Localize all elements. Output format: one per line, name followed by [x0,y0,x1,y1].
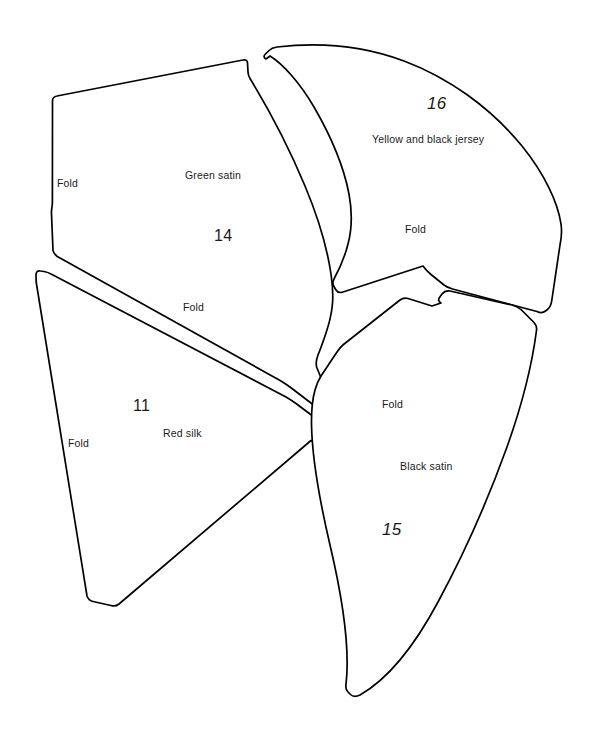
piece-number-11: 11 [133,398,150,414]
fabric-label-black-satin: Black satin [400,461,452,472]
fold-label-15: Fold [382,399,403,410]
pattern-drawing [0,0,590,740]
fabric-label-red-silk: Red silk [163,428,202,439]
fold-label-16: Fold [405,224,426,235]
fabric-label-green-satin: Green satin [185,170,241,181]
fabric-label-yellow-black-jersey: Yellow and black jersey [372,134,484,145]
piece-number-16: 16 [427,95,447,112]
piece-number-14: 14 [214,228,233,244]
fold-label-14-bottom: Fold [183,302,204,313]
pattern-sheet: Green satin 14 Fold Fold 16 Yellow and b… [0,0,590,740]
fold-label-11-left: Fold [68,438,89,449]
piece-outline-15 [311,291,536,697]
piece-number-15: 15 [382,521,402,538]
fold-label-14-left: Fold [57,178,78,189]
